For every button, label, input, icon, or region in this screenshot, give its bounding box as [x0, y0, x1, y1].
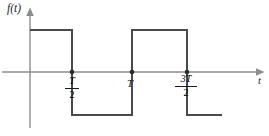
tick-label-three-half-T: 3T 2	[175, 74, 197, 98]
axis-node-dot-T	[130, 70, 135, 75]
plot-canvas	[0, 0, 269, 136]
tick-label-T: T	[127, 78, 133, 89]
tick-label-half-T-denominator: 2	[65, 89, 79, 100]
tick-label-half-T: T 2	[65, 76, 79, 100]
x-axis-label: t	[258, 76, 261, 87]
tick-label-three-half-T-denominator: 2	[175, 87, 197, 98]
square-wave-figure: f(t) t T 2 T 3T 2	[0, 0, 269, 136]
tick-label-half-T-numerator: T	[65, 76, 79, 87]
axis-node-dot-half-T	[70, 70, 75, 75]
tick-label-three-half-T-numerator: 3T	[175, 74, 197, 85]
y-axis-label: f(t)	[7, 3, 21, 15]
vertical-axis-arrowhead	[26, 8, 34, 17]
